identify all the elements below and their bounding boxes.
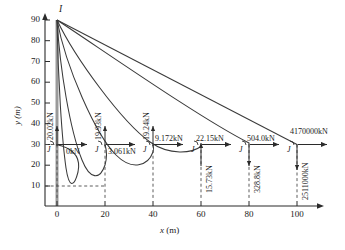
x-tick-label: 0 <box>45 210 69 219</box>
horizontal-force-label-20: 3.061kN <box>108 148 136 156</box>
node-label-0: J <box>47 146 51 154</box>
y-axis-title: y (m) <box>12 106 22 125</box>
vertical-force-label-100: 2511000kN <box>302 163 310 200</box>
vertical-force-label-60: 15.73kN <box>206 165 214 193</box>
y-tick-label: 20 <box>18 160 40 169</box>
x-tick-label: 100 <box>285 210 309 219</box>
horizontal-force-label-40: 9.172kN <box>155 135 183 143</box>
cable-curves <box>57 20 297 184</box>
y-axis-unit: (m) <box>12 106 22 121</box>
vertical-force-label-80: 328.8kN <box>254 165 262 193</box>
y-tick-label: 60 <box>18 77 40 86</box>
cable-curve-80 <box>57 20 249 145</box>
node-label-20: J <box>95 146 99 154</box>
y-tick-label: 70 <box>18 57 40 66</box>
y-tick-label: 10 <box>18 181 40 190</box>
y-tick-label: 90 <box>18 15 40 24</box>
x-axis-title: x (m) <box>160 226 179 235</box>
y-tick-label: 80 <box>18 36 40 45</box>
x-tick-label: 40 <box>141 210 165 219</box>
node-label-80: J <box>239 146 243 154</box>
y-axis-arrowhead <box>42 13 48 20</box>
x-tick-label: 60 <box>189 210 213 219</box>
horizontal-force-label-80: 504.0kN <box>247 135 275 143</box>
x-tick-label: 80 <box>237 210 261 219</box>
y-tick-marks <box>45 20 50 186</box>
node-label-40: J <box>143 146 147 154</box>
node-label-100: J <box>287 146 291 154</box>
x-tick-label: 20 <box>93 210 117 219</box>
y-tick-label: 30 <box>18 140 40 149</box>
x-axis-unit: (m) <box>164 225 179 235</box>
cable-curve-100 <box>57 20 297 145</box>
node-label-60: J <box>191 146 195 154</box>
horizontal-force-label-60: 22.15kN <box>196 135 224 143</box>
x-axis-arrowhead <box>317 203 324 209</box>
cable-curve-60 <box>57 20 201 152</box>
x-tick-marks <box>57 201 297 206</box>
vertical-force-label-40: 19.24kN <box>143 112 151 140</box>
anchor-point-label: I <box>59 5 62 15</box>
vertical-force-label-20: 19.93kN <box>95 112 103 140</box>
vertical-force-arrows <box>57 126 297 170</box>
horizontal-force-label-0: 0kN <box>66 148 80 156</box>
vertical-force-label-0: 20.02kN <box>47 112 55 140</box>
cable-curve-0 <box>57 20 79 184</box>
horizontal-force-label-100: 4170000kN <box>290 128 328 136</box>
y-axis-var: y <box>12 121 22 125</box>
